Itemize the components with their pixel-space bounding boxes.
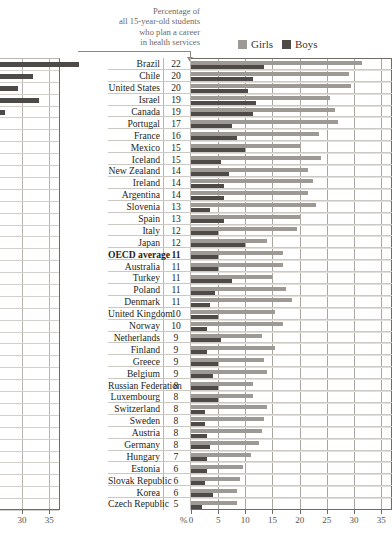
- table-row: France16: [108, 129, 392, 141]
- country-label: Slovak Republic: [108, 476, 160, 486]
- adjacent-row-separator: [0, 367, 59, 368]
- total-value: 8: [163, 404, 189, 414]
- adjacent-row-separator: [0, 165, 59, 166]
- table-row: Italy12: [108, 225, 392, 237]
- country-label: Ireland: [108, 178, 160, 188]
- total-value: 15: [163, 143, 189, 153]
- caption-leader-rule: [78, 51, 191, 52]
- country-label: Austria: [108, 428, 160, 438]
- total-value: 9: [163, 333, 189, 343]
- country-label: Slovenia: [108, 202, 160, 212]
- total-value: 7: [163, 452, 189, 462]
- x-axis-tick-label: 5: [216, 515, 221, 525]
- adjacent-axis-tick-35: [49, 510, 50, 514]
- total-value: 16: [163, 131, 189, 141]
- total-value: 13: [163, 214, 189, 224]
- total-value: 6: [163, 476, 189, 486]
- table-row: New Zealand14: [108, 165, 392, 177]
- x-axis-tick-label: 30: [349, 515, 358, 525]
- country-label: Australia: [108, 262, 160, 272]
- x-axis-tick-label: 35: [377, 515, 386, 525]
- country-label: Luxembourg: [108, 392, 160, 402]
- total-value: 10: [163, 309, 189, 319]
- country-label: New Zealand: [108, 166, 160, 176]
- adjacent-row-separator: [0, 106, 59, 107]
- total-value: 11: [163, 273, 189, 283]
- country-label: Canada: [108, 107, 160, 117]
- total-value: 8: [163, 440, 189, 450]
- total-value: 8: [163, 392, 189, 402]
- table-row: Hungary7: [108, 451, 392, 463]
- table-row: Czech Republic5: [108, 498, 392, 510]
- country-label: Russian Federation: [108, 381, 160, 391]
- total-value: 19: [163, 107, 189, 117]
- total-value: 9: [163, 369, 189, 379]
- x-axis-tick-25: [327, 510, 328, 514]
- adjacent-bar: [0, 98, 39, 103]
- table-row: Germany8: [108, 439, 392, 451]
- country-label: Switzerland: [108, 404, 160, 414]
- total-value: 9: [163, 345, 189, 355]
- total-value: 10: [163, 321, 189, 331]
- x-axis-tick-30: [354, 510, 355, 514]
- x-axis-tick-35: [381, 510, 382, 514]
- table-row: Netherlands9: [108, 332, 392, 344]
- table-row: Norway10: [108, 320, 392, 332]
- x-axis-tick-15: [272, 510, 273, 514]
- table-row: Slovenia13: [108, 201, 392, 213]
- country-label: Korea: [108, 488, 160, 498]
- x-axis-tick-0: [191, 510, 192, 514]
- adjacent-bar: [0, 86, 18, 91]
- total-value: 22: [163, 59, 189, 69]
- country-label: Japan: [108, 238, 160, 248]
- table-row: Austria8: [108, 427, 392, 439]
- x-axis-tick-label: 10: [241, 515, 250, 525]
- adjacent-row-separator: [0, 332, 59, 333]
- adjacent-row-separator: [0, 320, 59, 321]
- adjacent-row-separator: [0, 129, 59, 130]
- total-value: 11: [163, 262, 189, 272]
- adjacent-row-separator: [0, 117, 59, 118]
- legend-swatch-boys-icon: [282, 40, 291, 49]
- x-axis-tick-5: [218, 510, 219, 514]
- adjacent-row-separator: [0, 141, 59, 142]
- table-row: Luxembourg8: [108, 391, 392, 403]
- adjacent-chart-fragment: [0, 58, 60, 510]
- x-axis-unit-label: %: [180, 515, 188, 525]
- adjacent-row-separator: [0, 379, 59, 380]
- country-label: Denmark: [108, 297, 160, 307]
- country-label: Netherlands: [108, 333, 160, 343]
- adjacent-row-separator: [0, 260, 59, 261]
- legend-label-boys: Boys: [295, 38, 318, 50]
- country-label: United States: [108, 83, 160, 93]
- adjacent-row-separator: [0, 284, 59, 285]
- x-axis-tick-label: 20: [295, 515, 304, 525]
- country-label: Turkey: [108, 273, 160, 283]
- table-row: Spain13: [108, 213, 392, 225]
- x-axis-tick-20: [300, 510, 301, 514]
- adjacent-axis-tick-label: 30: [17, 515, 26, 525]
- country-label: United Kingdom: [108, 309, 160, 319]
- adjacent-row-separator: [0, 451, 59, 452]
- country-label: Poland: [108, 285, 160, 295]
- country-label: Sweden: [108, 416, 160, 426]
- total-value: 20: [163, 83, 189, 93]
- adjacent-row-separator: [0, 153, 59, 154]
- adjacent-bar: [0, 74, 33, 79]
- caption-line-4: in health services: [80, 37, 200, 47]
- caption-line-2: all 15-year-old students: [80, 16, 200, 26]
- table-row: Argentina14: [108, 189, 392, 201]
- total-value: 8: [163, 428, 189, 438]
- total-value: 12: [163, 226, 189, 236]
- country-label: Iceland: [108, 155, 160, 165]
- table-row: Russian Federation8: [108, 379, 392, 391]
- chart-caption: Percentage of all 15-year-old students w…: [80, 6, 200, 48]
- table-row: Portugal17: [108, 117, 392, 129]
- country-label: Hungary: [108, 452, 160, 462]
- adjacent-axis-tick-label: 35: [45, 515, 54, 525]
- total-value: 11: [163, 297, 189, 307]
- adjacent-row-separator: [0, 225, 59, 226]
- table-row: Poland11: [108, 284, 392, 296]
- adjacent-chart-axis: 253035: [0, 510, 60, 536]
- total-value: 15: [163, 155, 189, 165]
